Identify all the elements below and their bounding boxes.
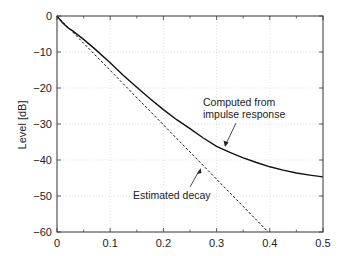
y-tick-label: −60 [33,226,52,238]
y-axis-label: Level [dB] [16,101,28,150]
y-tick-label: −40 [33,154,52,166]
y-tick-label: −30 [33,118,52,130]
x-tick-label: 0.5 [315,237,330,249]
annotation-computed: Computed from impulse response [203,96,285,147]
arrow-head-icon [197,168,202,174]
decay-chart: 00.10.20.30.40.5 0−10−20−30−40−50−60 Lev… [0,0,345,256]
annotation-computed-line2: impulse response [203,108,285,120]
computed-decay-curve [57,16,323,177]
arrow-head-icon [224,141,229,148]
x-tick-label: 0.3 [209,237,224,249]
x-tick-label: 0.1 [103,237,118,249]
annotation-estimated-text: Estimated decay [133,189,211,201]
annotation-computed-arrow [226,123,236,144]
y-tick-labels: 0−10−20−30−40−50−60 [33,10,52,238]
y-tick-label: −50 [33,190,52,202]
y-tick-label: −10 [33,46,52,58]
x-tick-labels: 00.10.20.30.40.5 [54,237,331,249]
annotation-estimated: Estimated decay [133,168,211,201]
annotation-computed-line1: Computed from [203,96,276,108]
x-tick-label: 0.4 [262,237,277,249]
x-tick-label: 0.2 [156,237,171,249]
y-tick-label: 0 [46,10,52,22]
x-tick-label: 0 [54,237,60,249]
y-tick-label: −20 [33,82,52,94]
